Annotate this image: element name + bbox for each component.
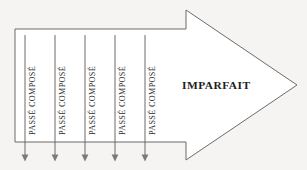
imparfait-label: IMPARFAIT: [182, 80, 251, 91]
event-label-3: PASSÉ COMPOSÉ: [89, 66, 97, 135]
event-label-2: PASSÉ COMPOSÉ: [59, 66, 67, 135]
event-label-1: PASSÉ COMPOSÉ: [29, 66, 37, 135]
event-label-4: PASSÉ COMPOSÉ: [119, 66, 127, 135]
event-label-5: PASSÉ COMPOSÉ: [149, 66, 157, 135]
diagram-canvas: PASSÉ COMPOSÉ PASSÉ COMPOSÉ PASSÉ COMPOS…: [0, 0, 307, 170]
